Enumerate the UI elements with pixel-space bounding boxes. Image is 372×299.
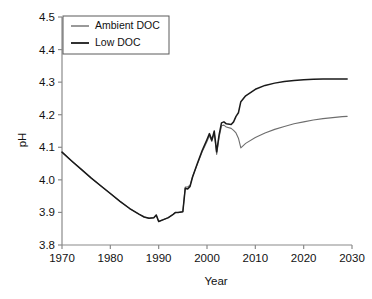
y-tick-label: 3.9 — [39, 206, 55, 218]
y-tick-label: 4.0 — [39, 174, 55, 186]
y-tick-label: 4.1 — [39, 141, 55, 153]
series-line-low-doc — [62, 79, 347, 222]
ph-trend-chart: 3.83.94.04.14.24.34.44.5 197019801990200… — [0, 0, 372, 299]
x-tick-label: 2030 — [339, 252, 365, 264]
x-tick-label: 1990 — [146, 252, 172, 264]
y-tick-label: 4.2 — [39, 109, 55, 121]
y-axis: 3.83.94.04.14.24.34.44.5 — [39, 11, 62, 251]
series-line-ambient-doc — [62, 116, 347, 221]
series-lines — [62, 79, 347, 222]
x-axis: 1970198019902000201020202030 — [49, 245, 365, 264]
x-tick-label: 1970 — [49, 252, 75, 264]
legend-label-ambient-doc: Ambient DOC — [95, 19, 160, 31]
y-tick-label: 4.5 — [39, 11, 55, 23]
legend-label-low-doc: Low DOC — [95, 36, 141, 48]
chart-canvas: 3.83.94.04.14.24.34.44.5 197019801990200… — [0, 0, 372, 299]
y-axis-title: pH — [16, 133, 28, 148]
y-tick-label: 4.4 — [39, 44, 56, 56]
x-tick-label: 2010 — [243, 252, 269, 264]
chart-legend: Ambient DOCLow DOC — [63, 16, 169, 54]
x-axis-title: Year — [204, 275, 227, 287]
y-tick-label: 3.8 — [39, 239, 55, 251]
y-tick-label: 4.3 — [39, 76, 55, 88]
x-tick-label: 2000 — [194, 252, 220, 264]
x-tick-label: 2020 — [291, 252, 317, 264]
x-tick-label: 1980 — [98, 252, 124, 264]
